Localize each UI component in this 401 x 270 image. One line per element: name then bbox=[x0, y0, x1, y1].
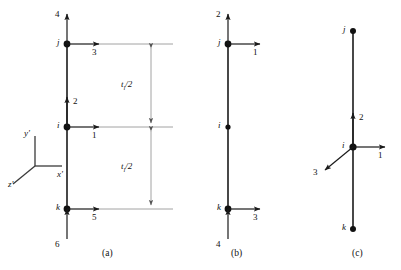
dof-label-6-a: 6 bbox=[55, 240, 60, 249]
dof-label-5-a: 5 bbox=[92, 213, 97, 222]
dimension-tail-bottom: /2 bbox=[125, 161, 132, 171]
dof-label-4-b: 4 bbox=[216, 240, 221, 249]
dof-label-3-a: 3 bbox=[92, 48, 97, 57]
node-label-i-b: i bbox=[218, 121, 221, 130]
dof-label-4-a: 4 bbox=[55, 10, 60, 19]
caption-b: (b) bbox=[231, 249, 242, 259]
dof-arrow-3-c bbox=[325, 147, 353, 170]
dimension-tail-top: /2 bbox=[125, 79, 132, 89]
node-label-i-a: i bbox=[57, 121, 60, 130]
dof-label-2-b: 2 bbox=[216, 10, 221, 19]
dof-label-2-c: 2 bbox=[359, 113, 364, 122]
node-k-dot-c bbox=[350, 226, 356, 232]
subfigure-c-graphics bbox=[325, 28, 385, 232]
dof-label-2-a: 2 bbox=[73, 97, 78, 106]
node-j-dot-c bbox=[350, 28, 356, 34]
dimension-label-bottom-a: tl/2 bbox=[121, 162, 132, 173]
dimension-label-top-a: tl/2 bbox=[121, 80, 132, 91]
caption-c: (c) bbox=[352, 249, 363, 259]
dof-label-3-b: 3 bbox=[253, 213, 258, 222]
node-label-i-c: i bbox=[342, 141, 345, 150]
subfigure-a-graphics bbox=[64, 14, 173, 239]
caption-a: (a) bbox=[102, 249, 113, 259]
node-label-k-b: k bbox=[217, 203, 221, 212]
node-label-k-c: k bbox=[342, 223, 346, 232]
node-label-k-a: k bbox=[56, 203, 60, 212]
axis-z-line bbox=[13, 166, 35, 184]
dof-label-1-b: 1 bbox=[253, 48, 258, 57]
dof-label-1-a: 1 bbox=[92, 131, 97, 140]
axis-label-x: x' bbox=[57, 170, 63, 179]
axis-triad-graphics bbox=[13, 136, 62, 184]
node-label-j-c: j bbox=[343, 25, 346, 34]
figure-root: j i k 4 3 2 1 6 5 tl/2 tl/2 (a) j i k 2 … bbox=[0, 0, 401, 270]
dof-label-1-c: 1 bbox=[378, 151, 383, 160]
node-label-j-b: j bbox=[218, 38, 221, 47]
axis-label-y: y' bbox=[24, 129, 30, 138]
figure-vector-layer bbox=[0, 0, 401, 270]
node-label-j-a: j bbox=[57, 38, 60, 47]
axis-label-z: z' bbox=[8, 180, 13, 189]
dof-label-3-c: 3 bbox=[313, 168, 318, 177]
node-i-dot-b bbox=[225, 124, 230, 129]
